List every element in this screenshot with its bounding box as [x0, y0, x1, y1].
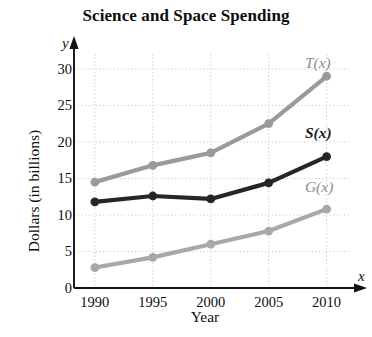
series-labels: T(x)S(x)G(x): [0, 0, 372, 337]
series-label-Tx: T(x): [305, 54, 331, 72]
chart-container: Science and Space Spending y x Dollars (…: [0, 0, 372, 337]
series-label-Sx: S(x): [305, 124, 332, 142]
series-label-Gx: G(x): [305, 178, 333, 196]
